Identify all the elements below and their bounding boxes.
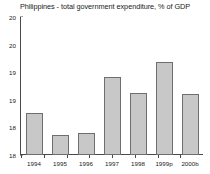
bar[interactable]: [182, 94, 199, 155]
bar[interactable]: [156, 62, 173, 155]
bar[interactable]: [130, 93, 147, 155]
chart-container: Philippines - total government expenditu…: [0, 0, 210, 174]
x-axis-tick-label: 1998: [125, 160, 151, 172]
bar-series: [21, 17, 203, 155]
x-axis-tick-slot: [112, 155, 135, 159]
x-axis-tick-label: 1995: [47, 160, 73, 172]
x-axis-labels: 199419951996199719981999p2000b: [21, 160, 203, 172]
x-axis-tick-label: 1996: [73, 160, 99, 172]
bar-slot: [177, 17, 203, 155]
x-axis-tick-slot: [44, 155, 67, 159]
x-axis-tick-label: 1999p: [151, 160, 177, 172]
bar[interactable]: [26, 113, 43, 156]
y-axis-tick-label: 20: [9, 14, 16, 21]
x-axis-ticks: [21, 155, 203, 159]
y-axis-tick-label: 19: [9, 96, 16, 103]
x-axis-tick-mark: [112, 155, 113, 158]
bar-slot: [125, 17, 151, 155]
bar-slot: [99, 17, 125, 155]
x-axis-tick-slot: [158, 155, 181, 159]
y-axis-tick-label: 18: [9, 152, 16, 159]
bar-slot: [47, 17, 73, 155]
x-axis-tick-mark: [44, 155, 45, 158]
x-axis-tick-mark: [67, 155, 68, 158]
x-axis-tick-slot: [67, 155, 90, 159]
chart-title: Philippines - total government expenditu…: [0, 2, 210, 11]
x-axis-tick-label: 1994: [21, 160, 47, 172]
x-axis-tick-slot: [89, 155, 112, 159]
x-axis-tick-slot: [135, 155, 158, 159]
y-axis-tick-label: 18: [9, 124, 16, 131]
x-axis-tick-label: 1997: [99, 160, 125, 172]
bar-slot: [21, 17, 47, 155]
bar-slot: [151, 17, 177, 155]
x-axis-tick-mark: [180, 155, 181, 158]
y-axis-tick-label: 19: [9, 69, 16, 76]
bar-slot: [73, 17, 99, 155]
bar[interactable]: [78, 133, 95, 155]
y-axis-tick-label: 20: [9, 41, 16, 48]
bar[interactable]: [52, 135, 69, 155]
bar[interactable]: [104, 77, 121, 155]
x-axis-tick-mark: [135, 155, 136, 158]
x-axis-tick-slot: [21, 155, 44, 159]
x-axis-tick-mark: [158, 155, 159, 158]
x-axis-tick-mark: [89, 155, 90, 158]
x-axis-tick-slot: [180, 155, 203, 159]
x-axis-tick-mark: [21, 155, 22, 158]
y-axis: 181819192020: [0, 17, 20, 155]
x-axis-tick-label: 2000b: [177, 160, 203, 172]
